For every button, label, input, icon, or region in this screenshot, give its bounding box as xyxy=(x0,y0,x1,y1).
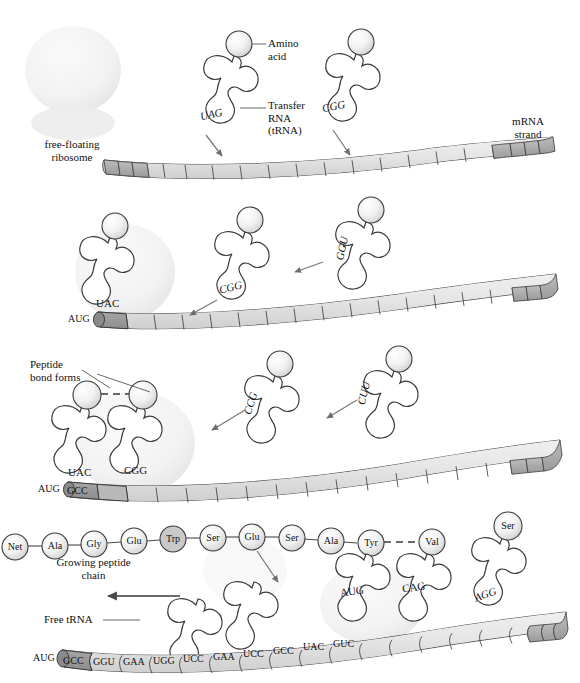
codon-label-panel3-aug: AUG xyxy=(38,483,60,496)
panel-1-free-ribosome xyxy=(25,26,121,140)
residue-bead-3: Glu xyxy=(120,535,148,548)
label-growing-chain: Growing peptide chain xyxy=(36,556,151,581)
codon-label-2: GGU xyxy=(93,656,115,669)
codon-label-9: UAC xyxy=(303,641,324,654)
codon-aug-panel2 xyxy=(94,312,129,329)
codon-label-panel2-aug: AUG xyxy=(68,313,90,326)
anticodon-panel2-uac: UAC xyxy=(96,297,119,310)
label-free-ribosome: free-floating ribosome xyxy=(22,138,122,163)
residue-free-ser: Ser xyxy=(494,520,522,533)
figure-canvas: free-floating ribosome Amino acid Transf… xyxy=(0,0,580,683)
codon-label-panel3-gcc: GCC xyxy=(67,485,88,498)
trna-panel1-uag xyxy=(204,31,266,156)
codon-label-7: UCC xyxy=(243,648,264,661)
codon-label-5: UCC xyxy=(183,653,204,666)
residue-bead-10: Val xyxy=(418,536,446,549)
label-free-trna: Free tRNA xyxy=(44,613,93,626)
codon-label-6: GAA xyxy=(213,651,235,664)
residue-bead-7: Ser xyxy=(278,532,306,545)
label-peptide-bond: Peptide bond forms xyxy=(30,358,80,383)
residue-bead-2: Gly xyxy=(80,538,108,551)
trna-panel1-cgg xyxy=(326,29,380,155)
codon-label-4: UGG xyxy=(153,655,175,668)
label-transfer-rna: Transfer RNA (tRNA) xyxy=(268,99,305,137)
codon-label-3: GAA xyxy=(123,656,145,669)
codon-gcc-panel3 xyxy=(97,484,128,501)
anticodon-panel3-uac: UAC xyxy=(68,466,91,479)
label-mrna-strand: mRNA strand xyxy=(498,115,558,140)
codon-label-0: AUG xyxy=(33,652,55,665)
residue-bead-6: Glu xyxy=(238,531,266,544)
residue-bead-9: Tyr xyxy=(357,537,385,550)
anticodon-panel3-cgg: CGG xyxy=(124,464,147,477)
label-amino-acid: Amino acid xyxy=(268,37,299,62)
residue-bead-8: Ala xyxy=(317,535,345,548)
residue-bead-0: Net xyxy=(1,541,29,554)
residue-bead-5: Ser xyxy=(199,532,227,545)
codon-label-8: GCC xyxy=(273,645,294,658)
panel-1-mrna-strand xyxy=(103,137,555,180)
trna-panel2-cgg xyxy=(190,207,269,315)
residue-bead-1: Ala xyxy=(41,540,69,553)
codon-label-10: GUC xyxy=(333,638,354,651)
trna-panel3-cuu xyxy=(327,346,418,438)
codon-label-1: GCC xyxy=(63,655,84,668)
residue-bead-4: Trp xyxy=(159,533,187,546)
